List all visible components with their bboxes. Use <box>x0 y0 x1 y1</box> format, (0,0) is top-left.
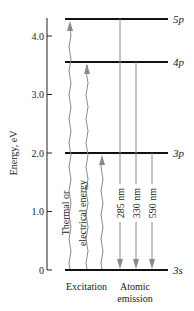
emission-caption-line1: Atomic <box>120 281 151 292</box>
excitation-energy-label-line2: electrical energy <box>77 180 88 246</box>
tick-label-4: 4.0 <box>32 31 45 42</box>
axis-title: Energy, eV <box>8 130 19 175</box>
emission-arrows <box>120 19 152 261</box>
tick-label-1: 1.0 <box>32 206 45 217</box>
arrowhead-up-icon <box>99 155 105 165</box>
excitation-energy-label-line1: Thermal or <box>60 190 71 235</box>
wavelength-label-285: 285 nm <box>115 188 126 219</box>
arrowhead-up-icon <box>67 21 73 31</box>
tick-label-3: 3.0 <box>32 89 45 100</box>
excitation-caption: Excitation <box>66 281 107 292</box>
excitation-arrow-3p <box>101 161 103 269</box>
level-label-3s: 3s <box>172 264 183 276</box>
axis-ticks <box>47 36 52 270</box>
level-label-4p: 4p <box>173 56 185 68</box>
arrowhead-down-icon <box>133 259 139 269</box>
tick-label-2: 2.0 <box>32 148 45 159</box>
wavelength-label-590: 590 nm <box>147 188 158 219</box>
arrowhead-up-icon <box>84 64 90 74</box>
arrowhead-down-icon <box>117 259 123 269</box>
wavelength-label-330: 330 nm <box>131 188 142 219</box>
energy-axis: 0 1.0 2.0 3.0 4.0 Energy, eV <box>8 18 52 276</box>
emission-arrowheads <box>117 259 155 269</box>
level-label-3p: 3p <box>172 147 185 159</box>
level-label-5p: 5p <box>173 13 185 25</box>
energy-level-diagram: 0 1.0 2.0 3.0 4.0 Energy, eV 5p 4p 3p 3s… <box>0 0 194 311</box>
arrowhead-down-icon <box>149 259 155 269</box>
tick-label-0: 0 <box>39 265 44 276</box>
emission-caption-line2: emission <box>117 293 153 304</box>
